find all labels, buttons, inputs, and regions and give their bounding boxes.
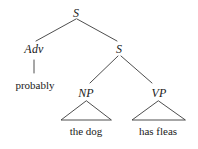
node-root-s: S [73,7,79,19]
edge-inner-s-to-np [90,56,118,83]
edge-root-to-adv [36,19,76,41]
leaf-the-dog: the dog [70,126,103,137]
leaf-probably: probably [15,80,54,91]
node-np: NP [78,87,94,99]
node-adv: Adv [24,43,43,55]
node-inner-s: S [116,43,122,55]
syntax-tree-figure: S Adv S NP VP probably the dog has fleas [0,0,198,149]
leaf-has-fleas: has fleas [139,126,177,137]
node-vp: VP [151,87,166,99]
triangle-np-the-dog [61,101,111,120]
edge-root-to-inner-s [77,19,117,41]
triangle-vp-has-fleas [132,101,185,120]
edge-inner-s-to-vp [121,56,152,83]
